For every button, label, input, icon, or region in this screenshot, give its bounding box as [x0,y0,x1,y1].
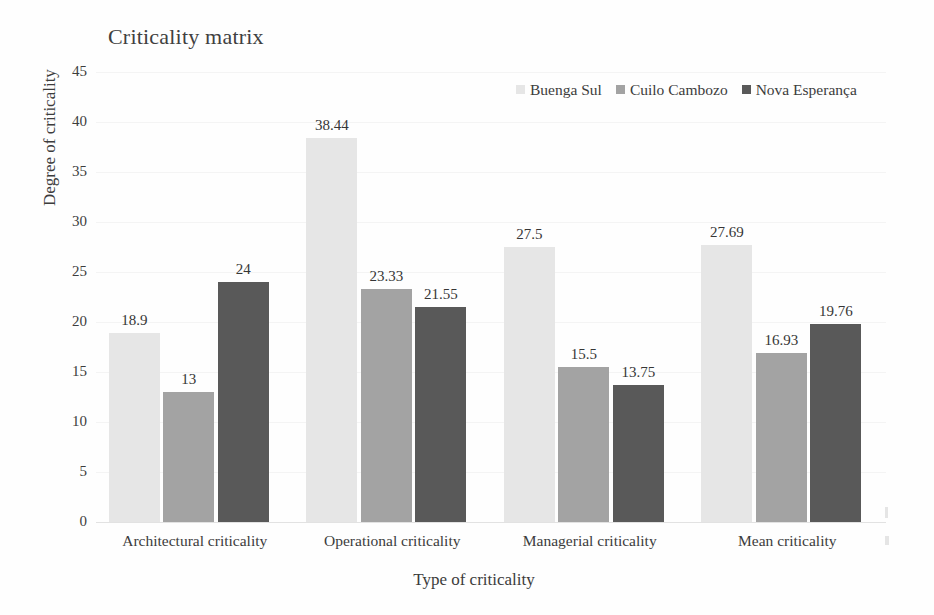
bar-0-2[interactable]: 24 [218,282,269,522]
bar-value-label-0-0: 18.9 [121,312,147,329]
x-category-label-1: Operational criticality [324,532,460,550]
x-category-label-3: Mean criticality [738,532,837,550]
x-category-label-2: Managerial criticality [523,532,657,550]
y-tick-label-15: 15 [72,363,87,380]
bar-value-label-2-1: 15.5 [571,346,597,363]
y-axis-title-text: Degree of criticality [40,69,60,206]
y-tick-label-0: 0 [80,513,88,530]
bar-3-1[interactable]: 16.93 [756,353,807,522]
y-tick-label-25: 25 [72,263,87,280]
bar-value-label-0-1: 13 [181,371,196,388]
bar-2-2[interactable]: 13.75 [613,385,664,523]
bar-value-label-0-2: 24 [236,261,251,278]
bar-value-label-1-1: 23.33 [369,268,403,285]
bar-group-0: 18.91324Architectural criticality [96,72,294,522]
y-tick-label-35: 35 [72,163,87,180]
bar-1-2[interactable]: 21.55 [415,307,466,523]
bar-value-label-2-2: 13.75 [621,364,655,381]
bar-group-2: 27.515.513.75Managerial criticality [491,72,689,522]
bar-value-label-1-2: 21.55 [424,286,458,303]
scan-artifact-2 [885,536,889,545]
y-tick-label-5: 5 [80,463,88,480]
bar-2-1[interactable]: 15.5 [558,367,609,522]
criticality-matrix-chart: Criticality matrix Buenga Sul Cuilo Camb… [0,0,934,615]
y-tick-label-10: 10 [72,413,87,430]
plot-area: 051015202530354045 18.91324Architectural… [96,72,886,522]
bar-3-0[interactable]: 27.69 [701,245,752,522]
y-tick-label-30: 30 [72,213,87,230]
y-tick-label-40: 40 [72,113,87,130]
bar-2-0[interactable]: 27.5 [504,247,555,522]
bar-group-3: 27.6916.9319.76Mean criticality [689,72,887,522]
bar-0-0[interactable]: 18.9 [109,333,160,522]
bar-group-1: 38.4423.3321.55Operational criticality [294,72,492,522]
x-category-label-0: Architectural criticality [122,532,267,550]
scan-artifact-1 [885,507,888,518]
chart-title: Criticality matrix [108,24,264,50]
gridline-0 [96,522,886,523]
bar-value-label-2-0: 27.5 [516,226,542,243]
bar-0-1[interactable]: 13 [163,392,214,522]
bar-value-label-3-0: 27.69 [710,224,744,241]
bar-value-label-1-0: 38.44 [315,117,349,134]
y-tick-label-45: 45 [72,63,87,80]
bar-1-1[interactable]: 23.33 [361,289,412,522]
bar-1-0[interactable]: 38.44 [306,138,357,522]
bar-3-2[interactable]: 19.76 [810,324,861,522]
bar-value-label-3-2: 19.76 [819,303,853,320]
bar-value-label-3-1: 16.93 [764,332,798,349]
x-axis-title: Type of criticality [0,570,934,590]
y-tick-label-20: 20 [72,313,87,330]
